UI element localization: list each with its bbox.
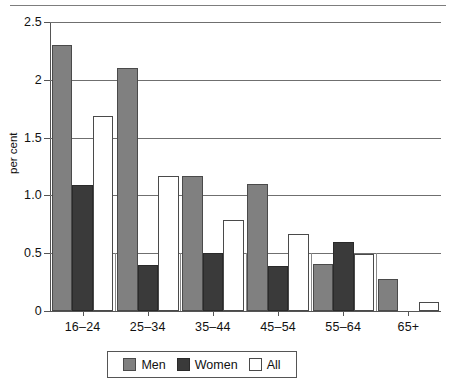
top-horizontal-rule — [10, 5, 446, 6]
legend-label-women: Women — [195, 358, 238, 372]
x-tick-mark — [148, 311, 149, 316]
bar-men-2 — [182, 176, 203, 311]
x-tick-mark — [83, 311, 84, 316]
x-tick-mark — [343, 311, 344, 316]
x-tick-label-1: 25–34 — [113, 320, 183, 334]
x-tick-mark — [408, 311, 409, 316]
bar-all-2 — [223, 220, 244, 311]
bar-women-4 — [333, 242, 354, 311]
y-tick-label: 2.5 — [2, 16, 42, 28]
bar-men-3 — [247, 184, 268, 311]
legend-swatch-men-icon — [123, 358, 136, 371]
group-separator — [376, 253, 377, 311]
bar-women-3 — [268, 266, 289, 311]
y-tick-label: 2 — [2, 74, 42, 86]
y-tick-label: 0 — [2, 305, 42, 317]
group-separator — [246, 253, 247, 311]
gridline — [50, 22, 441, 23]
group-separator — [115, 253, 116, 311]
bar-women-0 — [72, 185, 93, 311]
group-separator — [311, 253, 312, 311]
legend-label-all: All — [267, 358, 281, 372]
x-tick-label-4: 55–64 — [308, 320, 378, 334]
chart-legend: Men Women All — [107, 351, 297, 378]
x-axis-line — [50, 311, 441, 312]
legend-entry-men: Men — [123, 358, 165, 372]
x-tick-mark — [213, 311, 214, 316]
group-separator — [180, 253, 181, 311]
x-tick-label-3: 45–54 — [243, 320, 313, 334]
legend-label-men: Men — [141, 358, 165, 372]
plot-area — [50, 22, 441, 311]
bar-chart-figure: per cent 00.51.01.522.5 16–2425–3435–444… — [0, 0, 451, 392]
bar-all-5 — [419, 302, 440, 311]
y-tick-label: 0.5 — [2, 247, 42, 259]
legend-entry-women: Women — [177, 358, 238, 372]
gridline — [50, 80, 441, 81]
y-tick-mark — [44, 311, 51, 312]
legend-swatch-women-icon — [177, 358, 190, 371]
bar-women-1 — [138, 265, 159, 311]
bar-women-2 — [203, 253, 224, 311]
bar-men-1 — [117, 68, 138, 311]
x-tick-label-0: 16–24 — [48, 320, 118, 334]
legend-swatch-all-icon — [249, 358, 262, 371]
x-tick-label-5: 65+ — [373, 320, 443, 334]
bar-all-4 — [354, 254, 375, 311]
bar-men-4 — [313, 264, 334, 311]
y-tick-label: 1.5 — [2, 132, 42, 144]
bar-all-1 — [158, 176, 179, 311]
x-tick-mark — [278, 311, 279, 316]
bar-all-0 — [93, 116, 114, 311]
legend-entry-all: All — [249, 358, 281, 372]
bar-men-5 — [378, 279, 399, 311]
x-tick-label-2: 35–44 — [178, 320, 248, 334]
bar-all-3 — [288, 234, 309, 311]
bar-men-0 — [52, 45, 73, 311]
y-tick-label: 1.0 — [2, 189, 42, 201]
